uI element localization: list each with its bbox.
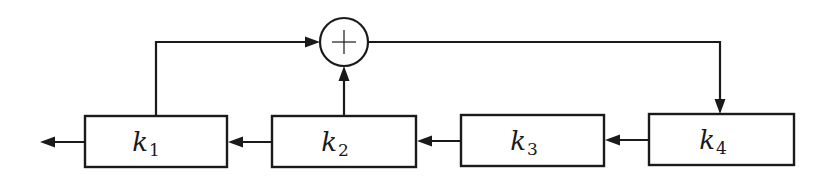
arrowhead-into-sum-left: [305, 37, 320, 48]
block-k2: k2: [272, 116, 416, 167]
arrowhead-into-k1: [228, 137, 243, 148]
lfsr-diagram: k1 k2 k3 k4: [0, 0, 837, 179]
block-k3: k3: [461, 115, 604, 166]
summing-junction: [320, 18, 368, 66]
arrowhead-into-sum-bottom: [339, 66, 350, 81]
output-arrowhead: [40, 137, 55, 148]
arrowhead-into-k4: [715, 99, 726, 114]
block-k1: k1: [85, 116, 227, 167]
sum-output-wire-to-k4: [368, 42, 720, 104]
feedback-wire-k1-to-sum: [156, 42, 311, 116]
arrowhead-into-k2: [417, 136, 432, 147]
block-k4: k4: [649, 114, 794, 165]
arrowhead-into-k3: [605, 135, 620, 146]
